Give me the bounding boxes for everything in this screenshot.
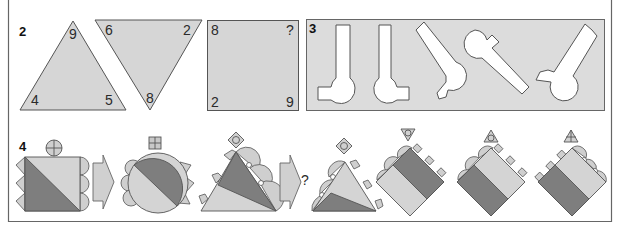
triangle-down-right-number: 2 xyxy=(183,22,191,38)
puzzle-4: 4 xyxy=(16,129,606,216)
triangle-up-top-number: 9 xyxy=(69,26,77,42)
option-a-triangle[interactable] xyxy=(312,138,383,211)
sequence-square xyxy=(16,140,89,211)
sequence-circle xyxy=(121,137,194,213)
square-bottom-left-number: 2 xyxy=(211,94,219,110)
square-cross-icon xyxy=(149,137,161,149)
sequence-question-mark: ? xyxy=(301,172,309,188)
circle-cross-icon xyxy=(46,140,62,156)
puzzle-2: 2 9 4 5 6 2 8 8 ? 2 9 xyxy=(19,20,299,111)
sequence-triangle xyxy=(199,132,284,211)
puzzle-2-label: 2 xyxy=(19,24,26,39)
triangle-down-bottom-number: 8 xyxy=(146,90,154,106)
option-d-diamond[interactable] xyxy=(535,130,607,216)
puzzle-4-label: 4 xyxy=(19,139,27,154)
triangle-up-right-number: 5 xyxy=(105,92,113,108)
square-top-right-number: ? xyxy=(286,22,294,38)
triangle-up-left-number: 4 xyxy=(31,92,39,108)
triangle-up-cross-icon xyxy=(564,130,578,142)
diamond-circle-icon xyxy=(228,132,244,148)
triangle-down-left-number: 6 xyxy=(105,22,113,38)
square-bottom-right-number: 9 xyxy=(286,94,294,110)
diamond-circle-icon xyxy=(336,138,352,154)
square-top-left-number: 8 xyxy=(211,22,219,38)
puzzle-3-label: 3 xyxy=(309,21,316,36)
number-square: 8 ? 2 9 xyxy=(208,21,299,111)
triangle-down-circle-icon xyxy=(401,129,415,141)
option-b-diamond[interactable] xyxy=(376,129,446,216)
puzzle-figure: 2 9 4 5 6 2 8 8 ? 2 9 3 xyxy=(0,0,620,233)
option-c-diamond[interactable] xyxy=(457,130,527,216)
arrow-right-icon xyxy=(280,155,301,209)
triangle-up-circle-icon xyxy=(484,130,498,142)
arrow-right-icon xyxy=(93,155,114,209)
puzzle-3: 3 xyxy=(307,20,605,111)
